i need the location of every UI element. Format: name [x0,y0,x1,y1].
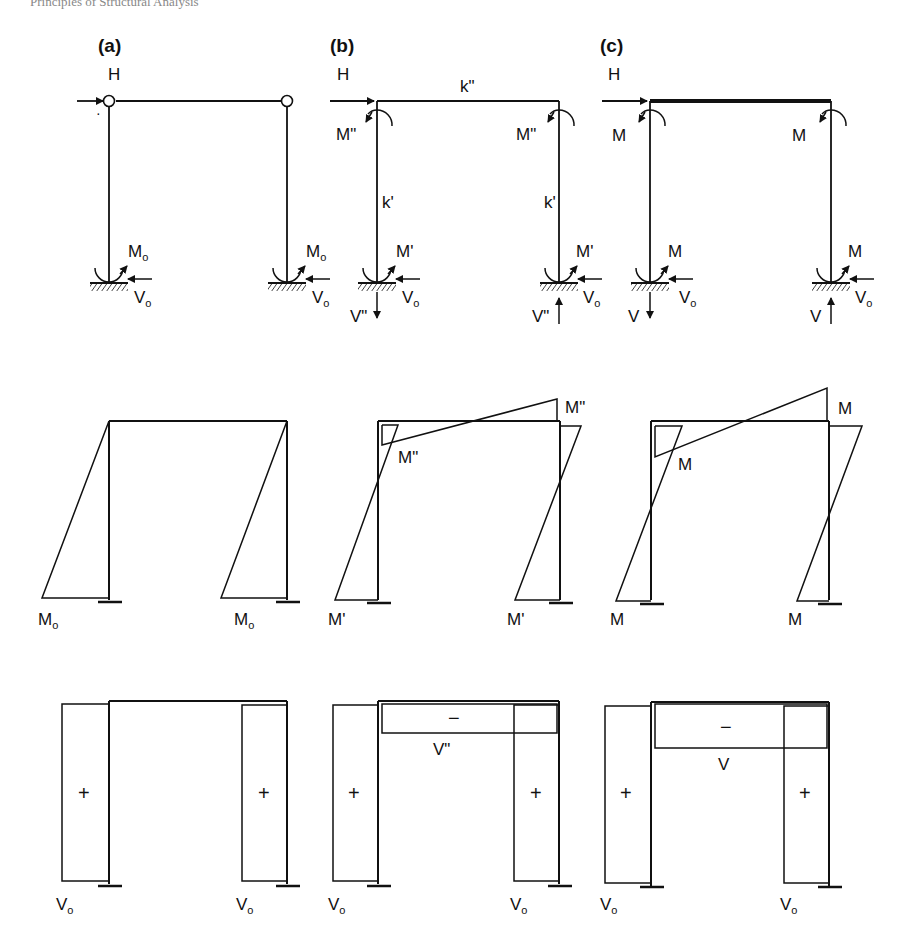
panel-label-b: (b) [330,35,354,56]
svg-text:−: − [448,707,460,729]
svg-text:M': M' [507,610,524,629]
svg-text:V": V" [532,307,549,326]
column-stiffness-label: k' [382,193,394,212]
svg-text:V": V" [350,307,367,326]
beam-stiffness-label: k" [460,77,475,96]
svg-text:Mo: Mo [306,242,326,263]
svg-text:V: V [810,307,822,326]
fixed-support-left: M' Vo V" [350,242,420,326]
svg-text:Vo: Vo [328,895,345,916]
svg-text:V: V [628,307,640,326]
fixed-support-right: M Vo V [810,242,874,326]
moment-diagram-b [335,399,581,603]
column-stiffness-label: k' [544,193,556,212]
svg-text:Vo: Vo [780,895,797,916]
svg-text:M: M [792,126,806,145]
svg-text:M: M [610,610,624,629]
beam-end-moment-label: M [838,399,852,418]
fixed-support-left: Mo Vo [90,242,152,309]
svg-text:M: M [788,610,802,629]
svg-text:Mo: Mo [38,610,58,631]
svg-text:M": M" [516,125,536,144]
svg-text:Vo: Vo [312,288,329,309]
svg-text:+: + [258,782,270,804]
beam-end-moment-label: M" [398,448,418,467]
svg-text:Vo: Vo [510,895,527,916]
panel-b-frame: (b) H k" k' k' M" M" M' Vo V" [330,35,602,326]
svg-text:M': M' [328,610,345,629]
svg-text:Vo: Vo [236,895,253,916]
moment-diagram-c [616,388,862,604]
svg-text:V": V" [433,740,450,759]
load-label-h: H [337,65,349,84]
svg-text:Vo: Vo [600,895,617,916]
svg-text:Mo: Mo [128,242,148,263]
svg-text:+: + [348,782,360,804]
svg-text:Vo: Vo [402,288,419,309]
svg-text:Vo: Vo [56,895,73,916]
svg-text:Vo: Vo [583,288,600,309]
load-label-h: H [108,65,120,84]
fixed-support-right: M' Vo V" [532,242,602,326]
svg-text:·: · [96,105,101,121]
load-label-h: H [608,65,620,84]
svg-text:Vo: Vo [134,288,151,309]
svg-text:+: + [799,782,811,804]
panel-label-a: (a) [98,35,121,56]
svg-text:V: V [718,755,730,774]
svg-text:M: M [848,242,862,261]
svg-text:+: + [78,782,90,804]
hinge-icon [282,96,293,107]
svg-text:+: + [530,782,542,804]
beam-end-moment-label: M" [565,398,585,417]
svg-text:M': M' [576,242,593,261]
svg-text:M: M [668,242,682,261]
svg-text:M': M' [396,242,413,261]
panel-a-frame: (a) H · Mo Vo Mo Vo [77,35,330,309]
svg-text:M: M [612,126,626,145]
moment-diagram-a [42,421,300,602]
panel-label-c: (c) [600,35,623,56]
svg-text:+: + [620,782,632,804]
panel-c-frame: (c) H M M M Vo V M Vo [600,35,874,326]
hinge-icon [104,96,115,107]
svg-text:−: − [720,716,732,738]
svg-text:Mo: Mo [234,610,254,631]
frame-analysis-figure: (a) H · Mo Vo Mo Vo [0,0,917,949]
fixed-support-right: Mo Vo [268,242,330,309]
svg-text:M": M" [336,125,356,144]
beam-end-moment-label: M [678,455,692,474]
svg-text:Vo: Vo [679,288,696,309]
svg-text:Vo: Vo [855,288,872,309]
fixed-support-left: M Vo V [628,242,696,326]
